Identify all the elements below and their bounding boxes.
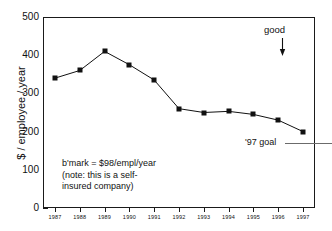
- x-axis-tick-labels: 1987198819891990199119921993199419951996…: [43, 213, 315, 225]
- x-axis-tick-label: 1987: [48, 213, 61, 221]
- x-axis-tick-mark: [204, 208, 205, 212]
- x-axis-tick-mark: [105, 208, 106, 212]
- data-point-marker: [77, 68, 82, 73]
- chart-screenshot: $ / employee / year 0100200300400500 198…: [0, 0, 332, 231]
- y-axis-tick-label: 300: [22, 88, 39, 98]
- x-axis-tick-mark: [129, 208, 130, 212]
- y-axis-tick-label: 100: [22, 165, 39, 175]
- y-axis-tick-label: 0: [33, 203, 39, 213]
- goal-reference-line: [285, 143, 332, 144]
- data-point-marker: [226, 109, 231, 114]
- x-axis-tick-mark: [55, 208, 56, 212]
- data-point-marker: [177, 106, 182, 111]
- down-arrow-icon: [278, 38, 287, 56]
- y-axis-tick-labels: 0100200300400500: [0, 17, 39, 208]
- x-axis-tick-label: 1997: [296, 213, 309, 221]
- x-axis-tick-label: 1988: [73, 213, 86, 221]
- benchmark-note-line-3: insured company): [62, 181, 156, 193]
- x-axis-tick-mark: [278, 208, 279, 212]
- x-axis-tick-label: 1995: [247, 213, 260, 221]
- goal-annotation-label: '97 goal: [245, 137, 276, 148]
- y-axis-tick-label: 400: [22, 50, 39, 60]
- benchmark-note-line-2: (note: this is a self-: [62, 170, 156, 182]
- data-point-marker: [251, 112, 256, 117]
- data-point-marker: [102, 49, 107, 54]
- x-axis-tick-mark: [179, 208, 180, 212]
- x-axis-tick-mark: [229, 208, 230, 212]
- data-point-marker: [127, 62, 132, 67]
- data-point-marker: [53, 76, 58, 81]
- y-axis-tick-label: 500: [22, 12, 39, 22]
- x-axis-tick-mark: [154, 208, 155, 212]
- x-axis-tick-mark: [253, 208, 254, 212]
- x-axis-tick-label: 1996: [272, 213, 285, 221]
- good-annotation-label: good: [264, 24, 285, 35]
- data-point-marker: [201, 110, 206, 115]
- x-axis-tick-label: 1993: [197, 213, 210, 221]
- x-axis-tick-label: 1992: [172, 213, 185, 221]
- data-point-marker: [276, 118, 281, 123]
- x-axis-tick-label: 1994: [222, 213, 235, 221]
- data-point-marker: [152, 78, 157, 83]
- x-axis-tick-label: 1991: [148, 213, 161, 221]
- x-axis-tick-mark: [80, 208, 81, 212]
- x-axis-tick-mark: [303, 208, 304, 212]
- y-axis-tick-label: 200: [22, 127, 39, 137]
- benchmark-note-line-1: b'mark = $98/empl/year: [62, 158, 156, 170]
- x-axis-tick-label: 1989: [98, 213, 111, 221]
- benchmark-note: b'mark = $98/empl/year (note: this is a …: [62, 158, 156, 193]
- data-point-marker: [301, 129, 306, 134]
- x-axis-tick-label: 1990: [123, 213, 136, 221]
